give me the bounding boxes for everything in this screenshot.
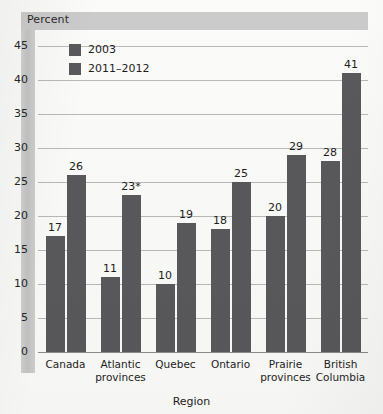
bar-value-label: 41 [334, 58, 368, 71]
bar [101, 277, 120, 352]
plot-area: 05101520253035404517261123*1019182520292… [38, 32, 368, 352]
y-tick-label: 20 [8, 209, 28, 222]
bar-chart-figure: Percent 05101520253035404517261123*10191… [0, 0, 383, 414]
bar [156, 284, 175, 352]
gridline [38, 182, 368, 183]
bar-value-label: 26 [59, 160, 93, 173]
bar-value-label: 28 [313, 146, 347, 159]
bar [232, 182, 251, 352]
bar-value-label: 10 [148, 269, 182, 282]
legend-swatch-icon-0 [69, 44, 81, 56]
bar-value-label: 17 [38, 221, 72, 234]
bar [177, 223, 196, 352]
x-tick-label-line: provinces [83, 371, 159, 384]
y-tick-label: 5 [8, 311, 28, 324]
bar [211, 229, 230, 352]
bar-value-label: 11 [93, 262, 127, 275]
bar-value-label: 18 [203, 214, 237, 227]
chart-legend: 2003 2011–2012 [69, 40, 150, 78]
legend-label-1: 2011–2012 [88, 62, 150, 75]
y-tick-label: 25 [8, 175, 28, 188]
y-tick-label: 30 [8, 141, 28, 154]
percent-header-bar [21, 12, 368, 30]
legend-item-1: 2011–2012 [69, 59, 150, 78]
bar-value-label: 19 [169, 208, 203, 221]
legend-label-0: 2003 [88, 43, 116, 56]
x-tick-label-line: British [303, 358, 379, 371]
bar [67, 175, 86, 352]
gridline [38, 250, 368, 251]
bar-value-label: 23* [114, 180, 148, 193]
y-tick-label: 45 [8, 39, 28, 52]
gridline [38, 318, 368, 319]
y-axis-title: Percent [27, 13, 69, 26]
gridline [38, 114, 368, 115]
bar [46, 236, 65, 352]
bar-value-label: 29 [279, 140, 313, 153]
y-tick-label: 40 [8, 73, 28, 86]
gridline [38, 80, 368, 81]
bar-value-label: 25 [224, 167, 258, 180]
bar [287, 155, 306, 352]
y-tick-label: 15 [8, 243, 28, 256]
gridline [38, 284, 368, 285]
x-axis-baseline [38, 352, 368, 353]
bar-value-label: 20 [258, 201, 292, 214]
legend-swatch-icon-1 [69, 63, 81, 75]
y-tick-label: 35 [8, 107, 28, 120]
x-axis-title: Region [0, 395, 383, 408]
bar [342, 73, 361, 352]
bar [321, 161, 340, 352]
y-tick-label: 0 [8, 345, 28, 358]
x-tick-label-line: Columbia [303, 371, 379, 384]
bar [266, 216, 285, 352]
y-tick-label: 10 [8, 277, 28, 290]
x-tick-label: BritishColumbia [303, 358, 379, 383]
legend-item-0: 2003 [69, 40, 150, 59]
